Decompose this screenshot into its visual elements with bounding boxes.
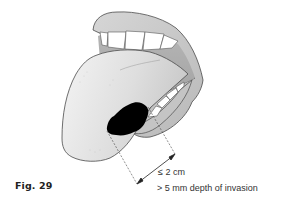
size-annotation: ≤ 2 cm bbox=[158, 167, 185, 177]
depth-annotation: > 5 mm depth of invasion bbox=[157, 183, 258, 193]
figure-label: Fig. 29 bbox=[15, 180, 52, 191]
